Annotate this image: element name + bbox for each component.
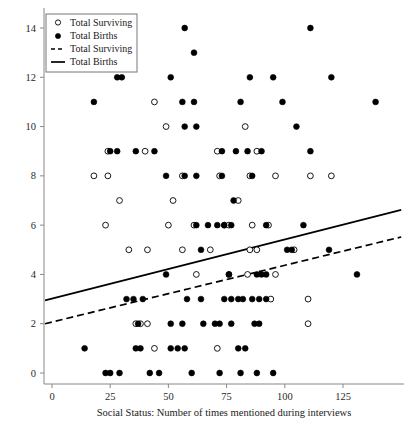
x-tick-label: 25 xyxy=(105,391,116,402)
data-point-surviving xyxy=(207,247,213,253)
data-point-births xyxy=(147,370,153,376)
data-point-surviving xyxy=(305,321,311,327)
legend-marker-filled-circle-icon xyxy=(55,33,60,38)
data-point-births xyxy=(182,173,188,179)
data-point-births xyxy=(263,222,269,228)
data-point-births xyxy=(259,148,265,154)
data-point-births xyxy=(301,222,307,228)
data-point-births xyxy=(245,148,251,154)
legend-marker-open-circle-icon xyxy=(55,20,60,25)
x-tick-label: 125 xyxy=(335,391,351,402)
data-point-births xyxy=(354,272,360,278)
data-point-surviving xyxy=(214,345,220,351)
data-point-births xyxy=(221,296,227,302)
data-point-births xyxy=(124,296,130,302)
data-point-births xyxy=(135,321,141,327)
data-point-births xyxy=(280,99,286,105)
data-point-surviving xyxy=(126,247,132,253)
data-point-births xyxy=(249,173,255,179)
data-point-surviving xyxy=(170,198,176,204)
data-point-births xyxy=(228,321,234,327)
data-point-births xyxy=(198,247,204,253)
y-tick-label: 8 xyxy=(31,170,36,181)
data-point-births xyxy=(193,222,199,228)
data-point-births xyxy=(289,247,295,253)
data-point-births xyxy=(152,148,158,154)
data-point-births xyxy=(184,296,190,302)
data-point-births xyxy=(217,370,223,376)
data-point-births xyxy=(198,296,204,302)
data-point-surviving xyxy=(273,272,279,278)
data-point-births xyxy=(168,74,174,80)
data-point-births xyxy=(308,148,314,154)
y-tick-label: 10 xyxy=(26,121,37,132)
data-point-births xyxy=(373,99,379,105)
data-point-births xyxy=(191,50,197,56)
data-point-births xyxy=(247,74,253,80)
data-point-births xyxy=(233,148,239,154)
data-point-births xyxy=(133,148,139,154)
chart-container: 024681012140255075100125Social Status: N… xyxy=(0,0,409,432)
data-point-surviving xyxy=(152,345,158,351)
data-point-births xyxy=(82,345,88,351)
data-point-births xyxy=(131,296,137,302)
data-point-births xyxy=(182,25,188,31)
data-point-births xyxy=(228,296,234,302)
y-tick-label: 2 xyxy=(31,318,36,329)
data-point-births xyxy=(328,74,334,80)
data-point-surviving xyxy=(308,173,314,179)
data-point-births xyxy=(91,99,97,105)
data-point-surviving xyxy=(91,173,97,179)
data-point-births xyxy=(163,272,169,278)
data-point-births xyxy=(231,198,237,204)
data-point-births xyxy=(221,222,227,228)
data-point-births xyxy=(256,296,262,302)
data-point-births xyxy=(214,222,220,228)
legend-label: Total Births xyxy=(70,56,117,67)
data-point-births xyxy=(263,296,269,302)
data-point-births xyxy=(238,370,244,376)
y-tick-label: 0 xyxy=(31,368,36,379)
data-point-surviving xyxy=(103,222,109,228)
data-point-births xyxy=(249,296,255,302)
x-tick-label: 0 xyxy=(49,391,54,402)
x-axis-title: Social Status: Number of times mentioned… xyxy=(97,407,352,418)
data-point-births xyxy=(179,321,185,327)
data-point-births xyxy=(205,222,211,228)
data-point-births xyxy=(217,321,223,327)
data-point-births xyxy=(308,25,314,31)
data-point-births xyxy=(189,370,195,376)
data-point-births xyxy=(238,99,244,105)
data-point-births xyxy=(191,99,197,105)
data-point-births xyxy=(242,345,248,351)
y-tick-label: 12 xyxy=(26,72,37,83)
data-point-births xyxy=(294,124,300,130)
data-point-births xyxy=(182,124,188,130)
data-point-surviving xyxy=(145,247,151,253)
data-point-surviving xyxy=(179,247,185,253)
data-point-births xyxy=(107,370,113,376)
data-point-births xyxy=(263,272,269,278)
data-point-surviving xyxy=(105,173,111,179)
data-point-births xyxy=(226,272,232,278)
legend-label: Total Births xyxy=(70,30,117,41)
data-point-births xyxy=(138,345,144,351)
data-point-births xyxy=(254,370,260,376)
data-point-surviving xyxy=(249,222,255,228)
data-point-births xyxy=(117,370,123,376)
data-point-surviving xyxy=(117,198,123,204)
data-point-births xyxy=(270,74,276,80)
data-point-births xyxy=(156,370,162,376)
data-point-births xyxy=(270,370,276,376)
data-point-surviving xyxy=(166,222,172,228)
data-point-surviving xyxy=(328,173,334,179)
data-point-births xyxy=(163,173,169,179)
data-point-births xyxy=(326,247,332,253)
data-point-births xyxy=(168,321,174,327)
data-point-births xyxy=(140,296,146,302)
data-point-births xyxy=(182,345,188,351)
data-point-surviving xyxy=(193,272,199,278)
legend-label: Total Surviving xyxy=(70,17,132,28)
data-point-births xyxy=(256,321,262,327)
data-point-births xyxy=(228,222,234,228)
